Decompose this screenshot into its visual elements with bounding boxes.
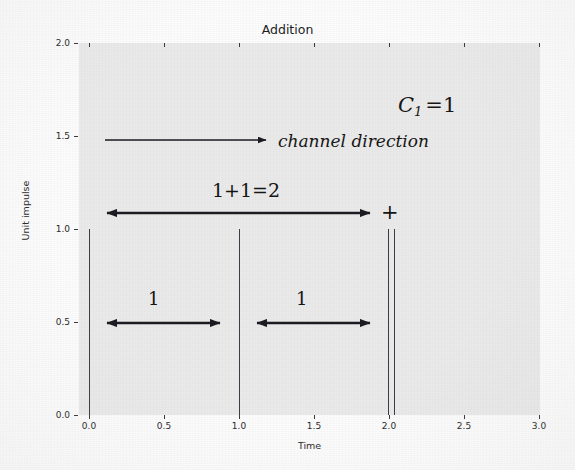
y-tick-mark: [74, 136, 78, 137]
x-axis-label: Time: [79, 440, 540, 451]
impulse-line-t0: [89, 229, 90, 415]
y-axis-label: Unit impulse: [20, 161, 31, 261]
y-tick-mark: [74, 415, 78, 416]
plot-area: [79, 43, 540, 415]
x-tick-mark: [89, 415, 90, 419]
y-tick-mark: [74, 43, 78, 44]
impulse-line-t1: [239, 229, 240, 415]
impulse-line-t2b: [394, 229, 395, 415]
x-tick-label-2-5: 2.5: [439, 421, 489, 431]
constant-label: C1=1: [398, 93, 456, 119]
x-tick-label-3-0: 3.0: [514, 421, 564, 431]
sum-label: 1+1=2: [212, 179, 280, 201]
x-tick-mark: [239, 415, 240, 419]
y-tick-mark: [74, 322, 78, 323]
x-tick-mark-top: [539, 43, 540, 47]
x-tick-mark: [464, 415, 465, 419]
x-tick-mark: [539, 415, 540, 419]
second-interval-label: 1: [296, 288, 307, 309]
y-tick-label-0-0: 0.0: [30, 410, 70, 420]
x-tick-label-2-0: 2.0: [364, 421, 414, 431]
y-tick-label-1-5: 1.5: [30, 131, 70, 141]
x-tick-label-1-0: 1.0: [214, 421, 264, 431]
channel-direction-label: channel direction: [278, 131, 429, 151]
y-tick-label-1-0: 1.0: [30, 224, 70, 234]
x-tick-mark-top: [314, 43, 315, 47]
x-tick-label-0-5: 0.5: [139, 421, 189, 431]
x-tick-mark-top: [239, 43, 240, 47]
chart-title: Addition: [0, 22, 575, 37]
x-tick-label-0-0: 0.0: [64, 421, 114, 431]
figure-page: not and overlaid channel as the of the a…: [0, 0, 575, 470]
plus-sign-label: +: [381, 200, 399, 224]
x-tick-mark-top: [464, 43, 465, 47]
x-tick-mark: [314, 415, 315, 419]
y-tick-label-0-5: 0.5: [30, 317, 70, 327]
x-tick-mark-top: [164, 43, 165, 47]
x-tick-mark: [389, 415, 390, 419]
y-tick-label-2-0: 2.0: [30, 38, 70, 48]
constant-value: =1: [422, 93, 456, 117]
y-tick-mark: [74, 229, 78, 230]
constant-symbol: C: [398, 93, 414, 117]
impulse-line-t2a: [388, 229, 389, 415]
x-tick-mark-top: [89, 43, 90, 47]
x-tick-mark: [164, 415, 165, 419]
x-tick-label-1-5: 1.5: [289, 421, 339, 431]
x-tick-mark-top: [389, 43, 390, 47]
first-interval-label: 1: [148, 288, 159, 309]
